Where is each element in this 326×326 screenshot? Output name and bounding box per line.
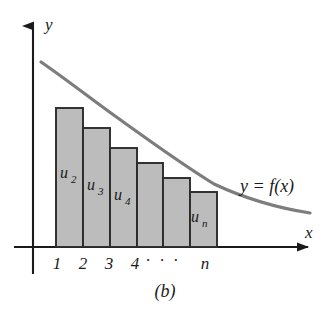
x-axis-label: x: [304, 223, 313, 242]
x-tick-4: 4: [131, 254, 140, 273]
x-tick-2: 2: [79, 254, 88, 273]
bar-u5: [137, 163, 163, 247]
figure-caption: (b): [155, 281, 176, 302]
bar-label-un-subscript: n: [202, 217, 208, 229]
x-tick-n: n: [201, 254, 210, 273]
bar-label-u3-subscript: 3: [97, 185, 104, 197]
bar-label-u3-base: u: [87, 176, 95, 193]
bar-label-u4-base: u: [114, 186, 122, 203]
x-tick-3: 3: [104, 254, 114, 273]
bar-label-un-base: u: [191, 208, 199, 225]
bar-group: [56, 108, 217, 247]
x-tick-ellipsis: · · ·: [145, 251, 180, 270]
integral-test-figure: y x y = f(x) u 2 u 3 u: [0, 0, 326, 326]
bar-label-u2-subscript: 2: [71, 173, 77, 185]
bar-label-u2-base: u: [60, 164, 68, 181]
x-tick-1: 1: [53, 254, 62, 273]
x-tick-label-group: 1 2 3 4 · · · n: [53, 251, 210, 273]
y-axis-label: y: [43, 15, 53, 34]
curve-equation-label: y = f(x): [238, 176, 294, 197]
bar-label-u4-subscript: 4: [125, 195, 131, 207]
bar-u6: [163, 178, 190, 247]
figure-container: y x y = f(x) u 2 u 3 u: [0, 0, 326, 326]
